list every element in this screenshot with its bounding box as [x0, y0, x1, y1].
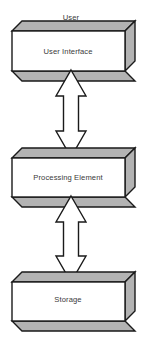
- node-user-interface[interactable]: User Interface: [12, 21, 135, 81]
- node-processing-element[interactable]: Processing Element: [12, 148, 135, 207]
- node-label-storage: Storage: [54, 295, 81, 304]
- double-headed-arrow-icon: [56, 196, 86, 282]
- block-diagram-svg: User User Interface Processing Element: [0, 0, 142, 348]
- connector-ui-to-processing-element[interactable]: [56, 70, 86, 157]
- box-top-face-storage: [12, 272, 135, 282]
- node-label-user-interface: User Interface: [43, 47, 92, 56]
- box-bottom-face-storage: [12, 321, 135, 331]
- box-top-face-user-interface: [12, 21, 135, 31]
- double-headed-arrow-icon: [56, 70, 86, 157]
- connector-processing-element-to-storage[interactable]: [56, 196, 86, 282]
- diagram-canvas: User User Interface Processing Element: [0, 0, 142, 348]
- node-label-processing-element: Processing Element: [33, 173, 103, 182]
- node-storage[interactable]: Storage: [12, 272, 135, 331]
- box-top-face-processing-element: [12, 148, 135, 158]
